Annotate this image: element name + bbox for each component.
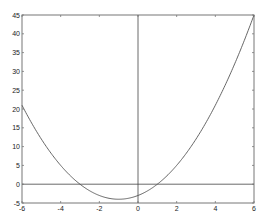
y-tick-label: 25 bbox=[12, 87, 20, 94]
y-axis-ticks: -5051015202530354045 bbox=[12, 12, 254, 207]
x-tick-label: -2 bbox=[96, 205, 102, 212]
x-axis-ticks: -6-4-20246 bbox=[19, 15, 256, 212]
y-tick-label: 30 bbox=[12, 68, 20, 75]
x-tick-label: 6 bbox=[252, 205, 256, 212]
y-tick-label: 20 bbox=[12, 106, 20, 113]
plot-area bbox=[22, 15, 254, 203]
x-tick-label: -4 bbox=[58, 205, 64, 212]
x-tick-label: 0 bbox=[136, 205, 140, 212]
y-tick-label: 35 bbox=[12, 49, 20, 56]
x-tick-label: 4 bbox=[213, 205, 217, 212]
y-tick-label: 10 bbox=[12, 143, 20, 150]
chart: -6-4-20246 -5051015202530354045 bbox=[0, 0, 268, 222]
y-tick-label: 45 bbox=[12, 12, 20, 19]
y-tick-label: 5 bbox=[16, 162, 20, 169]
x-tick-label: 2 bbox=[175, 205, 179, 212]
y-tick-label: 15 bbox=[12, 124, 20, 131]
y-tick-label: 0 bbox=[16, 181, 20, 188]
y-tick-label: 40 bbox=[12, 30, 20, 37]
y-tick-label: -5 bbox=[14, 200, 20, 207]
